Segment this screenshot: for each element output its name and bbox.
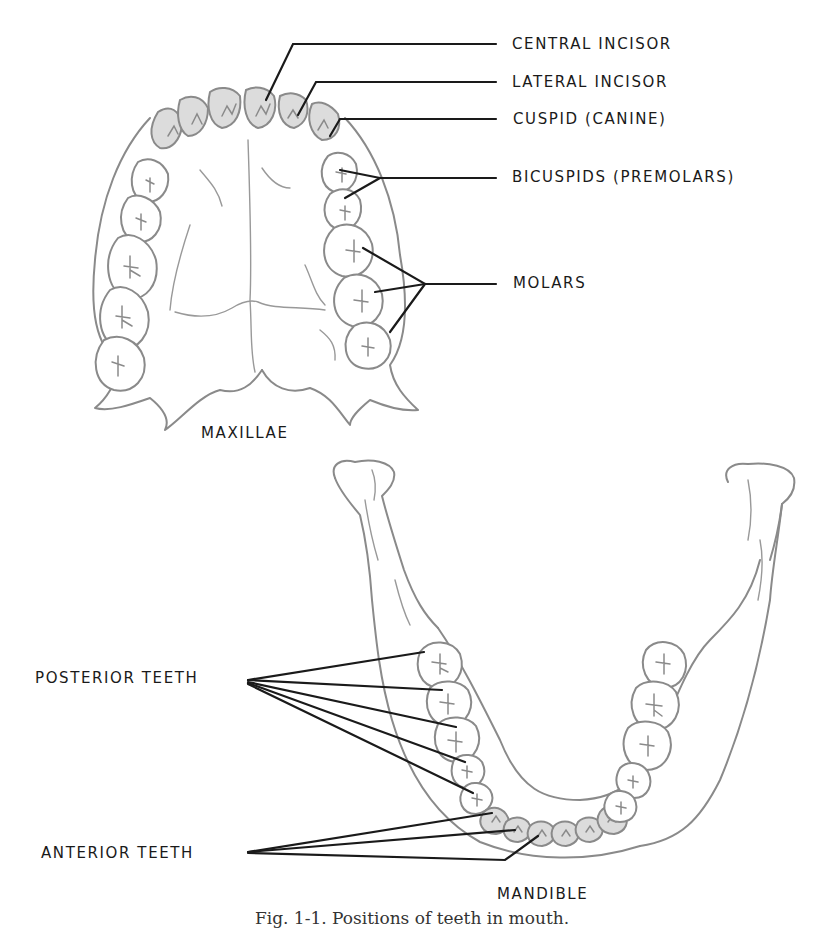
leader-central-incisor — [266, 44, 496, 100]
leader-molars-b — [375, 284, 425, 292]
maxilla-drawing — [93, 88, 418, 430]
label-central-incisor: CENTRAL INCISOR — [512, 37, 672, 52]
label-maxillae: MAXILLAE — [201, 426, 289, 441]
label-anterior-teeth: ANTERIOR TEETH — [41, 846, 194, 861]
label-cuspid: CUSPID (CANINE) — [513, 112, 667, 127]
leader-posterior-1 — [248, 652, 424, 680]
leader-molars-c — [390, 284, 425, 332]
mandible-drawing — [334, 460, 795, 857]
dental-arch-diagram: CENTRAL INCISOR LATERAL INCISOR CUSPID (… — [0, 0, 824, 930]
leader-molars-a — [363, 248, 496, 284]
leader-anterior-2 — [248, 830, 515, 852]
label-molars: MOLARS — [513, 276, 586, 291]
label-mandible: MANDIBLE — [497, 887, 588, 902]
label-bicuspids: BICUSPIDS (PREMOLARS) — [512, 170, 735, 185]
label-posterior-teeth: POSTERIOR TEETH — [35, 671, 198, 686]
diagram-canvas — [0, 0, 824, 930]
maxilla-leader-lines — [266, 44, 496, 332]
label-lateral-incisor: LATERAL INCISOR — [512, 75, 668, 90]
leader-bicuspids-a — [340, 170, 496, 178]
leader-anterior-1 — [248, 813, 492, 852]
figure-caption: Fig. 1-1. Positions of teeth in mouth. — [0, 908, 824, 928]
leader-cuspid — [330, 119, 496, 136]
